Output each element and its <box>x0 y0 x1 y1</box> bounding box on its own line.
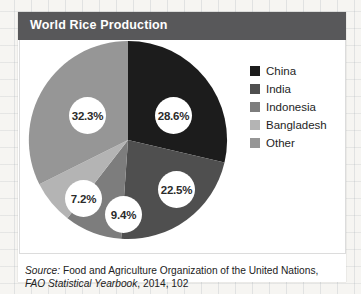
pie-label-other: 32.3% <box>69 97 106 134</box>
legend-swatch-icon-china <box>250 66 260 76</box>
legend-item-india[interactable]: India <box>250 80 342 97</box>
figure-card: World Rice Production 28.6% 22.5% 9.4% 7… <box>18 12 346 282</box>
figure-title-bar: World Rice Production <box>18 12 346 40</box>
legend-label-bangladesh: Bangladesh <box>266 119 327 131</box>
legend-swatch-icon-indonesia <box>250 102 260 112</box>
pie-chart: 28.6% 22.5% 9.4% 7.2% 32.3% <box>27 40 229 240</box>
source-prefix: Source: <box>25 265 60 276</box>
legend-swatch-icon-india <box>250 84 260 94</box>
legend-item-bangladesh[interactable]: Bangladesh <box>250 116 342 133</box>
pie-label-china: 28.6% <box>155 97 192 134</box>
pie-label-bangladesh: 7.2% <box>65 180 102 217</box>
source-publication: FAO Statistical Yearbook <box>25 278 137 289</box>
legend-item-other[interactable]: Other <box>250 134 342 151</box>
pie-label-india: 22.5% <box>158 171 195 208</box>
source-citation: Source: Food and Agriculture Organizatio… <box>25 264 340 290</box>
legend-swatch-icon-other <box>250 138 260 148</box>
legend-label-other: Other <box>266 137 295 149</box>
legend-item-indonesia[interactable]: Indonesia <box>250 98 342 115</box>
legend-label-indonesia: Indonesia <box>266 101 316 113</box>
source-suffix: , 2014, 102 <box>137 278 188 289</box>
source-body: Food and Agriculture Organization of the… <box>60 265 318 276</box>
chart-legend: China India Indonesia Bangladesh Other <box>250 62 342 152</box>
pie-label-indonesia: 9.4% <box>105 196 142 233</box>
legend-item-china[interactable]: China <box>250 62 342 79</box>
chart-plot-area: 28.6% 22.5% 9.4% 7.2% 32.3% China India … <box>19 40 346 254</box>
figure-title: World Rice Production <box>30 18 168 32</box>
legend-label-india: India <box>266 83 291 95</box>
legend-label-china: China <box>266 65 296 77</box>
legend-swatch-icon-bangladesh <box>250 120 260 130</box>
